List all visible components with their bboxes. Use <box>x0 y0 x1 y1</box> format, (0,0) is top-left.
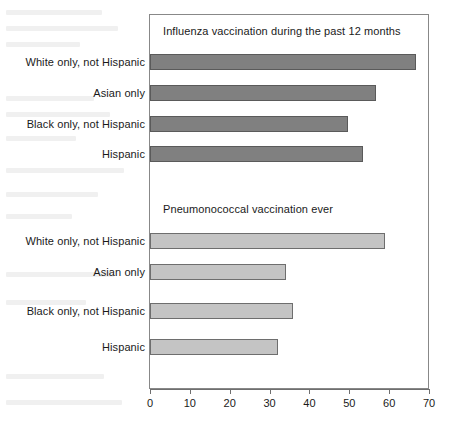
category-label-pneumococcal-hispanic: Hispanic <box>5 341 145 353</box>
x-axis-tick-60 <box>389 389 390 394</box>
x-axis-tick-label-20: 20 <box>224 397 236 409</box>
category-label-influenza-hispanic: Hispanic <box>5 148 145 160</box>
plot-area-frame <box>149 14 429 389</box>
category-label-column: White only, not Hispanic Asian only Blac… <box>0 0 145 436</box>
bar-influenza-asian <box>150 85 376 101</box>
bar-influenza-white <box>150 54 416 70</box>
x-axis-tick-10 <box>190 389 191 394</box>
bar-pneumococcal-asian <box>150 264 286 280</box>
bar-pneumococcal-white <box>150 233 385 249</box>
x-axis-tick-50 <box>349 389 350 394</box>
x-axis-tick-label-10: 10 <box>184 397 196 409</box>
bar-influenza-black <box>150 116 348 132</box>
x-axis-tick-label-40: 40 <box>303 397 315 409</box>
panel-title-pneumococcal: Pneumonococcal vaccination ever <box>163 203 333 215</box>
x-axis-tick-70 <box>429 389 430 394</box>
x-axis-tick-40 <box>309 389 310 394</box>
x-axis-tick-0 <box>150 389 151 394</box>
bar-influenza-hispanic <box>150 146 363 162</box>
category-label-pneumococcal-asian: Asian only <box>5 266 145 278</box>
x-axis-tick-label-60: 60 <box>383 397 395 409</box>
x-axis-tick-20 <box>230 389 231 394</box>
category-label-influenza-white: White only, not Hispanic <box>5 56 145 68</box>
x-axis-line <box>150 389 429 390</box>
category-label-influenza-black: Black only, not Hispanic <box>5 118 145 130</box>
category-label-pneumococcal-white: White only, not Hispanic <box>5 235 145 247</box>
panel-title-influenza: Influenza vaccination during the past 12… <box>163 25 401 37</box>
category-label-pneumococcal-black: Black only, not Hispanic <box>5 305 145 317</box>
x-axis-tick-30 <box>270 389 271 394</box>
bar-pneumococcal-black <box>150 303 293 319</box>
bar-pneumococcal-hispanic <box>150 339 278 355</box>
x-axis-tick-label-50: 50 <box>343 397 355 409</box>
x-axis-tick-label-0: 0 <box>147 397 153 409</box>
category-label-influenza-asian: Asian only <box>5 87 145 99</box>
chart-container: Influenza vaccination during the past 12… <box>0 0 453 436</box>
x-axis-tick-label-30: 30 <box>263 397 275 409</box>
x-axis-tick-label-70: 70 <box>423 397 435 409</box>
